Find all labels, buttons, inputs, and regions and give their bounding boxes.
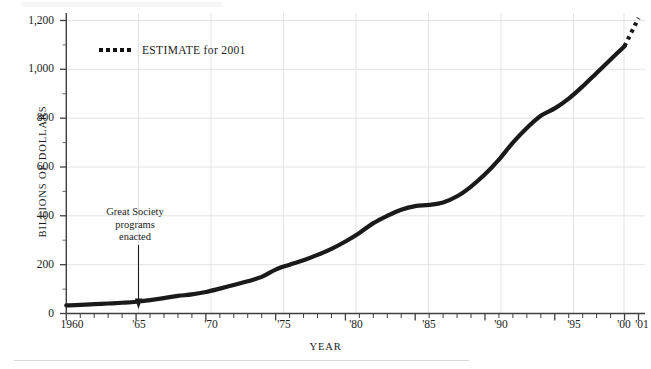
line-chart-plot bbox=[0, 0, 651, 369]
annotation-line-3: enacted bbox=[77, 231, 193, 244]
x-tick-label-1960: 1960 bbox=[61, 319, 84, 331]
x-tick-label-01: '01 bbox=[635, 319, 649, 331]
x-tick-label-85: '85 bbox=[422, 319, 436, 331]
y-axis-major-ticks bbox=[60, 21, 66, 314]
x-tick-label-00: '00 bbox=[617, 319, 631, 331]
footer-divider bbox=[14, 360, 469, 361]
data-line-actual bbox=[66, 46, 624, 305]
y-tick-label-0: 0 bbox=[6, 308, 54, 320]
x-tick-label-70: '70 bbox=[204, 319, 218, 331]
annotation-line-1: Great Society bbox=[77, 206, 193, 219]
annotation-arrow bbox=[135, 245, 142, 309]
annotation-great-society: Great Society programs enacted bbox=[77, 206, 193, 244]
y-tick-label-1200: 1,200 bbox=[6, 15, 54, 27]
y-axis-title: BILLIONS OF DOLLARS bbox=[37, 82, 48, 262]
legend-label-estimate: ESTIMATE for 2001 bbox=[142, 44, 246, 56]
x-tick-label-90: '90 bbox=[494, 319, 508, 331]
x-tick-label-75: '75 bbox=[277, 319, 291, 331]
annotation-line-2: programs bbox=[77, 219, 193, 232]
data-line-estimate bbox=[625, 18, 639, 46]
x-axis-title: YEAR bbox=[0, 341, 651, 352]
vertical-gridlines bbox=[139, 13, 625, 314]
x-tick-label-65: '65 bbox=[132, 319, 146, 331]
chart-figure: 1,200 1,000 800 600 400 200 0 1960 '65 '… bbox=[0, 0, 651, 369]
y-tick-label-1000: 1,000 bbox=[6, 63, 54, 75]
chart-legend: ESTIMATE for 2001 bbox=[99, 44, 246, 56]
x-tick-label-80: '80 bbox=[349, 319, 363, 331]
x-tick-label-95: '95 bbox=[567, 319, 581, 331]
legend-dotted-swatch-icon bbox=[99, 48, 133, 52]
